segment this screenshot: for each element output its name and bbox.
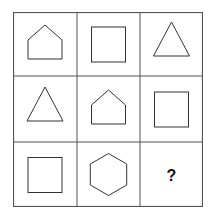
pentagon-shape	[28, 25, 62, 59]
pentagon-shape	[92, 90, 126, 124]
puzzle-grid: ?	[13, 12, 203, 207]
square-shape	[28, 158, 62, 193]
triangle-shape	[154, 22, 190, 56]
square-shape	[92, 27, 126, 62]
square-shape	[155, 92, 189, 127]
triangle-shape	[27, 87, 63, 121]
hexagon-shape	[90, 154, 126, 196]
puzzle-svg: ?	[13, 12, 203, 207]
missing-answer-mark: ?	[167, 167, 177, 184]
